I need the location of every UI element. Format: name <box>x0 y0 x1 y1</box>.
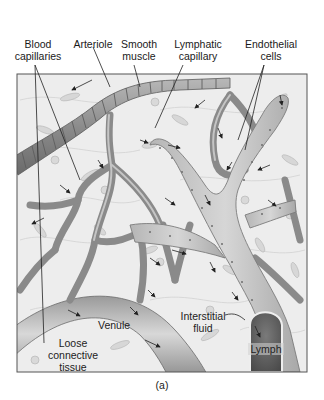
label-line: Arteriole <box>68 38 118 50</box>
label-line: Interstitial <box>175 310 231 322</box>
label-blood-capillaries: Blood capillaries <box>14 38 62 62</box>
label-smooth-muscle: Smooth muscle <box>118 38 160 62</box>
label-line: tissue <box>48 361 98 373</box>
label-line: capillaries <box>14 50 62 62</box>
label-line: muscle <box>118 50 160 62</box>
label-line: Smooth <box>118 38 160 50</box>
label-loose-connective-tissue: Loose connective tissue <box>48 337 98 373</box>
label-line: Blood <box>14 38 62 50</box>
label-endothelial-cells: Endothelial cells <box>240 38 302 62</box>
label-line: capillary <box>170 50 226 62</box>
label-arteriole: Arteriole <box>68 38 118 50</box>
label-line: cells <box>240 50 302 62</box>
label-line: Endothelial <box>240 38 302 50</box>
label-interstitial-fluid: Interstitial fluid <box>175 310 231 334</box>
label-venule: Venule <box>98 319 130 331</box>
label-lymph: Lymph <box>248 343 284 355</box>
label-line: connective <box>48 349 98 361</box>
label-line: Loose <box>48 337 98 349</box>
label-lymphatic-capillary: Lymphatic capillary <box>170 38 226 62</box>
label-line: fluid <box>175 322 231 334</box>
figure-caption: (a) <box>0 379 324 391</box>
label-line: Lymphatic <box>170 38 226 50</box>
